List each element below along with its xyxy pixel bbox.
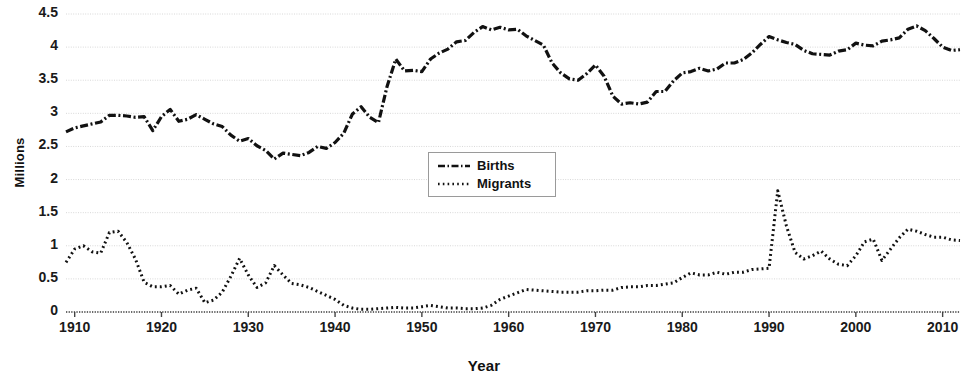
chart-legend: Births Migrants <box>428 152 556 197</box>
y-tick-label-1: 1 <box>0 236 58 252</box>
x-tick-label-1910: 1910 <box>35 319 115 335</box>
x-tick-label-1970: 1970 <box>555 319 635 335</box>
legend-label-births: Births <box>477 159 515 173</box>
x-tick-label-1950: 1950 <box>382 319 462 335</box>
y-tick-label-0: 0 <box>0 302 58 318</box>
y-tick-label-2: 2 <box>0 170 58 186</box>
x-tick-label-2000: 2000 <box>816 319 896 335</box>
series-line-births <box>66 26 960 159</box>
series-line-migrants <box>66 191 960 310</box>
y-tick-label-4: 4 <box>0 37 58 53</box>
y-tick-label-4_5: 4.5 <box>0 4 58 20</box>
x-axis-title: Year <box>0 357 968 374</box>
legend-item-births[interactable]: Births <box>437 157 549 175</box>
x-tick-label-2010: 2010 <box>903 319 968 335</box>
y-axis-title: Millions <box>12 118 27 208</box>
y-tick-label-2_5: 2.5 <box>0 136 58 152</box>
x-tick-label-1960: 1960 <box>469 319 549 335</box>
legend-swatch-dotted <box>437 178 471 190</box>
y-tick-label-3: 3 <box>0 103 58 119</box>
legend-swatch-dash-dot <box>437 160 471 172</box>
x-tick-label-1940: 1940 <box>295 319 375 335</box>
y-tick-label-0_5: 0.5 <box>0 269 58 285</box>
chart-container: 00.511.522.533.544.5 1910192019301940195… <box>0 0 968 383</box>
x-tick-label-1920: 1920 <box>121 319 201 335</box>
y-tick-label-1_5: 1.5 <box>0 203 58 219</box>
x-tick-label-1980: 1980 <box>642 319 722 335</box>
legend-item-migrants[interactable]: Migrants <box>437 175 549 193</box>
legend-label-migrants: Migrants <box>477 177 531 191</box>
x-tick-label-1930: 1930 <box>208 319 288 335</box>
y-tick-label-3_5: 3.5 <box>0 70 58 86</box>
x-tick-label-1990: 1990 <box>729 319 809 335</box>
